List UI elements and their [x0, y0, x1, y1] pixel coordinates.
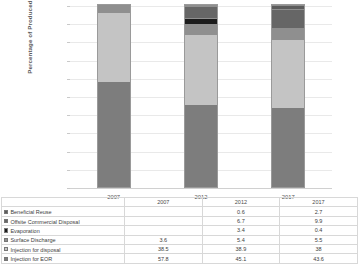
bar-segment: [272, 29, 304, 39]
table-body: Beneficial Reuse0.62.7Offsite Commercial…: [2, 207, 358, 263]
legend-swatch-icon: [4, 238, 8, 242]
table-value-cell: 0.4: [280, 226, 358, 235]
table-value-cell: 5.4: [202, 235, 280, 244]
table-header: 200720122017: [2, 198, 358, 207]
bar-segment: [272, 108, 304, 187]
table-row: Evaporation3.40.4: [2, 226, 358, 235]
bar-segment: [185, 24, 217, 34]
table-value-cell: 3.6: [125, 235, 203, 244]
table-value-cell: 3.4: [202, 226, 280, 235]
table-value-cell: [125, 226, 203, 235]
legend-label: Offsite Commercial Disposal: [10, 218, 79, 224]
legend-entry: Injection for disposal: [2, 244, 125, 253]
stacked-bar: [97, 4, 131, 188]
table-row: Injection for EOR57.845.143.6: [2, 254, 358, 263]
table-header-cell-2007: 2007: [125, 198, 203, 207]
bar-segment: [272, 39, 304, 108]
legend-value-table: 200720122017 Beneficial Reuse0.62.7Offsi…: [1, 197, 358, 264]
legend-swatch-icon: [4, 210, 8, 214]
table-corner-cell: [2, 198, 125, 207]
legend-label: Surface Discharge: [10, 237, 55, 243]
bar-group-2012: 2012: [157, 6, 244, 188]
table-value-cell: [125, 207, 203, 216]
legend-swatch-icon: [4, 228, 8, 232]
chart-plot-area: Percentage of Produced Water 01020304050…: [0, 0, 338, 196]
table-row: Injection for disposal38.538.938: [2, 244, 358, 253]
table-header-cell-2012: 2012: [202, 198, 280, 207]
bar-segment: [98, 12, 130, 82]
legend-swatch-icon: [4, 257, 8, 261]
table-value-cell: 38: [280, 244, 358, 253]
y-axis-tick: [67, 188, 70, 189]
gridline: [70, 188, 332, 189]
legend-label: Beneficial Reuse: [10, 209, 51, 215]
legend-entry: Beneficial Reuse: [2, 207, 125, 216]
chart-bars: 200720122017: [70, 6, 332, 188]
table-value-cell: 2.7: [280, 207, 358, 216]
legend-entry: Surface Discharge: [2, 235, 125, 244]
bar-segment: [185, 6, 217, 18]
legend-entry: Injection for EOR: [2, 254, 125, 263]
legend-swatch-icon: [4, 219, 8, 223]
table-value-cell: 5.5: [280, 235, 358, 244]
y-axis-title: Percentage of Produced Water: [26, 0, 33, 103]
table-value-cell: 38.5: [125, 244, 203, 253]
legend-label: Injection for EOR: [10, 256, 52, 262]
table-row: Surface Discharge3.65.45.5: [2, 235, 358, 244]
table-value-cell: 0.6: [202, 207, 280, 216]
table-value-cell: 57.8: [125, 254, 203, 263]
stacked-bar: [184, 4, 218, 188]
legend-entry: Offsite Commercial Disposal: [2, 216, 125, 225]
table-value-cell: 38.9: [202, 244, 280, 253]
table-value-cell: 6.7: [202, 216, 280, 225]
table-value-cell: 9.9: [280, 216, 358, 225]
chart-data-table: 200720122017 Beneficial Reuse0.62.7Offsi…: [1, 197, 337, 260]
legend-swatch-icon: [4, 247, 8, 251]
bar-segment: [272, 9, 304, 27]
bar-segment: [98, 82, 130, 187]
table-row: Beneficial Reuse0.62.7: [2, 207, 358, 216]
stacked-bar: [271, 4, 305, 188]
legend-label: Evaporation: [10, 228, 39, 234]
table-value-cell: 45.1: [202, 254, 280, 263]
bar-segment: [185, 105, 217, 187]
bar-segment: [185, 34, 217, 105]
table-header-cell-2017: 2017: [280, 198, 358, 207]
table-value-cell: 43.6: [280, 254, 358, 263]
legend-entry: Evaporation: [2, 226, 125, 235]
bar-group-2017: 2017: [245, 6, 332, 188]
table-value-cell: [125, 216, 203, 225]
table-row: Offsite Commercial Disposal6.79.9: [2, 216, 358, 225]
table-header-row: 200720122017: [2, 198, 358, 207]
bar-group-2007: 2007: [70, 6, 157, 188]
legend-label: Injection for disposal: [10, 246, 60, 252]
